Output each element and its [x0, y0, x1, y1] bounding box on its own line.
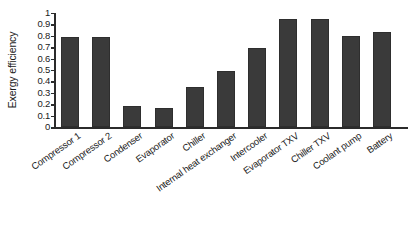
y-axis-tick-mark	[51, 116, 55, 117]
y-axis-title-text: Exergy efficiency	[6, 32, 18, 109]
y-axis-tick-label: 0.1	[20, 111, 50, 121]
y-axis-tick-label: 0.7	[20, 42, 50, 52]
bar	[186, 87, 204, 127]
y-axis-title: Exergy efficiency	[4, 12, 20, 128]
bar	[342, 36, 360, 127]
x-axis-category-labels: Compressor 1Compressor 2CondenserEvapora…	[54, 128, 415, 224]
y-axis-tick-mark	[51, 70, 55, 71]
y-axis-tick-mark	[51, 81, 55, 82]
y-axis-tick-label: 1	[20, 8, 50, 18]
exergy-efficiency-bar-chart: Exergy efficiency 00.10.20.30.40.50.60.7…	[0, 0, 415, 225]
bars-layer	[54, 13, 406, 127]
y-axis-tick-labels: 00.10.20.30.40.50.60.70.80.91	[20, 7, 50, 133]
bar	[61, 37, 79, 127]
y-axis-tick-mark	[51, 59, 55, 60]
y-axis-tick-label: 0	[20, 122, 50, 132]
bar	[123, 106, 141, 127]
y-axis-tick-mark	[51, 47, 55, 48]
y-axis-tick-mark	[51, 24, 55, 25]
y-axis-tick-label: 0.5	[20, 65, 50, 75]
y-axis-tick-label: 0.3	[20, 88, 50, 98]
bar	[217, 71, 235, 127]
bar	[92, 37, 110, 127]
y-axis-tick-mark	[51, 13, 55, 14]
x-axis-category-label: Battery	[364, 130, 394, 155]
y-axis-tick-label: 0.6	[20, 54, 50, 64]
bar	[155, 108, 173, 127]
y-axis-tick-label: 0.4	[20, 76, 50, 86]
y-axis-tick-mark	[51, 104, 55, 105]
bar	[311, 19, 329, 127]
bar	[279, 19, 297, 127]
y-axis-tick-label: 0.8	[20, 31, 50, 41]
y-axis-tick-mark	[51, 36, 55, 37]
y-axis-tick-label: 0.9	[20, 19, 50, 29]
y-axis-tick-mark	[51, 93, 55, 94]
y-axis-tick-label: 0.2	[20, 99, 50, 109]
bar	[373, 32, 391, 127]
bar	[248, 48, 266, 127]
plot-area	[54, 13, 406, 127]
